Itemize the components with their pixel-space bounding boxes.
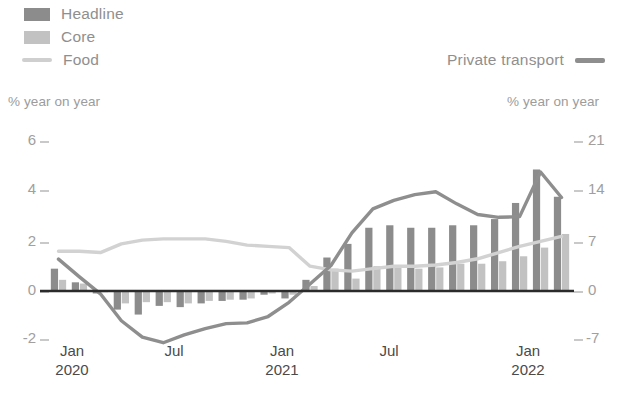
bar-core-4	[143, 291, 150, 302]
bar-core-6	[185, 291, 192, 303]
bar-core-13	[331, 269, 338, 291]
bar-core-17	[415, 269, 422, 291]
bar-headline-13	[323, 258, 330, 291]
x-label-0-year: 2020	[39, 360, 105, 379]
bar-core-3	[122, 291, 129, 303]
bar-core-16	[394, 266, 401, 291]
bar-core-7	[206, 291, 213, 301]
bar-core-19	[457, 264, 464, 291]
bar-headline-3	[114, 291, 121, 310]
bar-headline-18	[428, 228, 435, 291]
x-label-1: Jul	[141, 341, 207, 360]
bar-headline-5	[156, 291, 163, 306]
bar-headline-9	[239, 291, 246, 300]
bar-headline-6	[177, 291, 184, 307]
x-label-2: Jan 2021	[249, 341, 315, 379]
x-label-3: Jul	[356, 341, 422, 360]
bar-headline-19	[449, 225, 456, 291]
bar-core-23	[541, 248, 548, 291]
bar-headline-15	[365, 228, 372, 291]
bar-headline-7	[198, 291, 205, 303]
bar-core-5	[164, 291, 171, 302]
bar-core-21	[499, 261, 506, 291]
bar-headline-14	[344, 244, 351, 291]
bar-core-22	[520, 256, 527, 291]
x-label-4: Jan 2022	[495, 341, 561, 379]
bar-core-18	[436, 267, 443, 291]
line-food	[58, 236, 561, 271]
x-label-2-month: Jan	[249, 341, 315, 360]
chart-root: Headline Core Food Private transport % y…	[0, 0, 623, 404]
bar-core-20	[478, 264, 485, 291]
x-label-4-month: Jan	[495, 341, 561, 360]
x-label-2-year: 2021	[249, 360, 315, 379]
bar-headline-0	[51, 269, 58, 291]
bar-core-8	[227, 291, 234, 300]
x-label-0-month: Jan	[39, 341, 105, 360]
x-label-3-month: Jul	[356, 341, 422, 360]
bar-core-14	[352, 279, 359, 291]
bar-headline-4	[135, 291, 142, 315]
bar-headline-8	[219, 291, 226, 301]
x-label-0: Jan 2020	[39, 341, 105, 379]
bar-headline-17	[407, 228, 414, 291]
x-label-1-month: Jul	[141, 341, 207, 360]
bar-headline-16	[386, 225, 393, 291]
bar-core-24	[562, 234, 569, 291]
x-label-4-year: 2022	[495, 360, 561, 379]
bar-core-0	[59, 280, 66, 291]
bar-headline-1	[72, 282, 79, 291]
bar-headline-24	[554, 197, 561, 291]
